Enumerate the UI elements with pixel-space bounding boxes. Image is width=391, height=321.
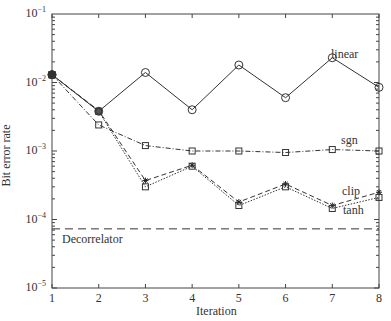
x-tick-label: 3 [135, 291, 155, 306]
x-tick-label: 6 [276, 291, 296, 306]
x-tick-label: 8 [369, 291, 389, 306]
y-tick-label: 10−3 [6, 142, 46, 158]
marker-square [96, 122, 102, 128]
y-tick-label: 10−2 [6, 74, 46, 90]
annotation-sgn: sgn [341, 133, 358, 148]
marker-start-overlap [48, 71, 56, 79]
annotation-decorrelator: Decorrelator [62, 232, 123, 247]
x-tick-label: 5 [229, 291, 249, 306]
x-tick-label: 2 [89, 291, 109, 306]
x-axis-label: Iteration [196, 304, 237, 319]
x-tick-label: 1 [42, 291, 62, 306]
x-tick-label: 7 [322, 291, 342, 306]
marker-iter2-overlap [96, 108, 102, 114]
x-tick-label: 4 [182, 291, 202, 306]
series-line-linear [52, 58, 379, 112]
series-line-clip [52, 75, 379, 206]
y-tick-label: 10−5 [6, 279, 46, 295]
y-tick-label: 10−4 [6, 211, 46, 227]
y-tick-label: 10−1 [6, 5, 46, 21]
annotation-linear: linear [331, 47, 358, 62]
series-line-tanh [52, 75, 379, 209]
annotation-clip: clip [342, 184, 360, 199]
annotation-tanh: tanh [343, 203, 364, 218]
